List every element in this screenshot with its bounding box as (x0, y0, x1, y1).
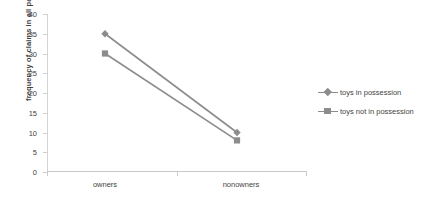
series-line (105, 34, 237, 133)
y-tick-label: 10 (29, 128, 37, 137)
y-tick-label: 20 (29, 89, 37, 98)
series-layer (47, 14, 307, 172)
y-axis-title: frequency of claims in all pairs (24, 0, 33, 125)
square-marker-icon (102, 50, 108, 56)
line-chart: frequency of claims in all pairs 40 35 3… (0, 0, 435, 200)
y-tick-label: 35 (29, 29, 37, 38)
y-tick-label: 5 (33, 148, 37, 157)
legend-item-toys-in-possession[interactable]: toys in possession (318, 84, 433, 100)
legend-label: toys in possession (340, 88, 401, 97)
diamond-marker-icon (318, 87, 338, 97)
y-tick-label: 40 (29, 10, 37, 19)
y-tick-label: 30 (29, 49, 37, 58)
y-tick-label: 25 (29, 69, 37, 78)
legend-item-toys-not-in-possession[interactable]: toys not in possession (318, 103, 433, 119)
legend: toys in possession toys not in possessio… (318, 84, 433, 122)
legend-label: toys not in possession (340, 107, 414, 116)
y-tick-label: 15 (29, 108, 37, 117)
x-tick-label-nonowners: nonowners (223, 180, 260, 189)
series-line (105, 54, 237, 141)
square-marker-icon (234, 137, 240, 143)
plot-area: 40 35 30 25 20 15 10 5 0 (47, 14, 307, 172)
x-tick-label-owners: owners (93, 180, 117, 189)
square-marker-icon (318, 106, 338, 116)
y-tick-label: 0 (33, 168, 37, 177)
